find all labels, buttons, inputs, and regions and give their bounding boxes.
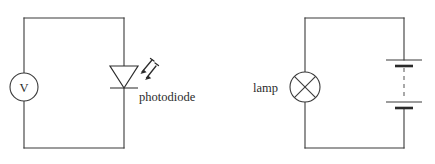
photodiode-label: photodiode (139, 91, 195, 104)
circuit-figure: V (0, 0, 435, 164)
light-ray-arrows (140, 59, 158, 81)
voltmeter-symbol: V (10, 73, 38, 101)
lamp-circuit-group (290, 18, 422, 148)
battery-symbol (386, 60, 422, 108)
voltmeter-label: V (19, 81, 28, 95)
lamp-symbol (290, 72, 320, 102)
light-ray-1-head (140, 70, 146, 74)
lamp-label: lamp (253, 82, 278, 95)
photodiode-symbol (110, 66, 138, 88)
photodiode-triangle (110, 66, 138, 88)
circuit-diagram-canvas: V (0, 0, 435, 164)
light-ray-tick-2 (155, 63, 159, 66)
photodiode-circuit-group: V (10, 18, 159, 148)
